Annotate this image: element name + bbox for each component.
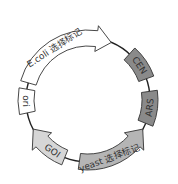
feature-ori: ori [18, 88, 35, 115]
feature-goi: GOI [32, 129, 68, 165]
feature-yeast: yeast 选择标记 [77, 129, 143, 174]
plasmid-map: E.coli 选择标记CENARSyeast 选择标记GOIori [0, 0, 178, 184]
feature-ars: ARS [138, 90, 158, 126]
ori-label: ori [21, 95, 31, 107]
feature-ecoli: E.coli 选择标记 [21, 26, 112, 85]
